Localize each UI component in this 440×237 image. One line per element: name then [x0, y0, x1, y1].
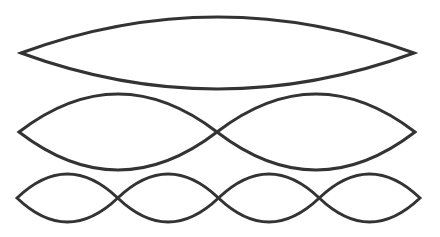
- lens-loop: [21, 17, 414, 89]
- wave-row-fourth-harmonic: [17, 174, 420, 222]
- wave-row-second-harmonic: [19, 94, 415, 170]
- lens-loop: [219, 174, 320, 222]
- standing-waves-figure: [0, 0, 440, 237]
- lens-loop: [17, 174, 118, 222]
- diagram-canvas: [0, 0, 440, 237]
- lens-loop: [118, 174, 219, 222]
- wave-row-fundamental: [21, 17, 414, 89]
- lens-loop: [217, 94, 415, 170]
- lens-loop: [319, 174, 420, 222]
- lens-loop: [19, 94, 217, 170]
